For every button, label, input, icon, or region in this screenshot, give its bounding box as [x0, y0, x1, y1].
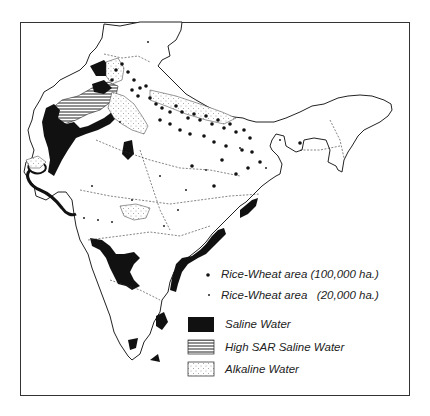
legend-saline-swatch — [188, 317, 214, 332]
legend-large-dot-icon — [206, 273, 210, 277]
legend-high-sar-swatch — [188, 340, 214, 354]
legend-label-high-sar: High SAR Saline Water — [225, 341, 344, 353]
legend-label-saline: Saline Water — [225, 318, 291, 330]
saline-region-south-3 — [150, 354, 160, 362]
legend-alkaline-swatch — [188, 362, 214, 376]
legend-small-dot-icon — [208, 294, 210, 296]
india-outline — [24, 22, 392, 360]
legend-label-alkaline: Alkaline Water — [225, 363, 299, 375]
india-map — [0, 0, 430, 416]
legend-label-rice-wheat-small: Rice-Wheat area (20,000 ha.) — [221, 289, 379, 301]
legend-label-rice-wheat-large: Rice-Wheat area (100,000 ha.) — [221, 268, 379, 280]
